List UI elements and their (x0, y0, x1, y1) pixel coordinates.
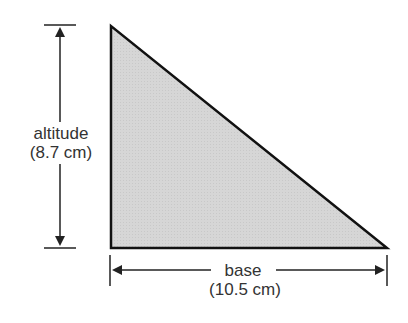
right-triangle (111, 26, 387, 248)
base-label: base (203, 261, 283, 280)
altitude-label: altitude (0, 124, 122, 143)
base-value: (10.5 cm) (190, 280, 300, 299)
altitude-value: (8.7 cm) (0, 143, 122, 162)
